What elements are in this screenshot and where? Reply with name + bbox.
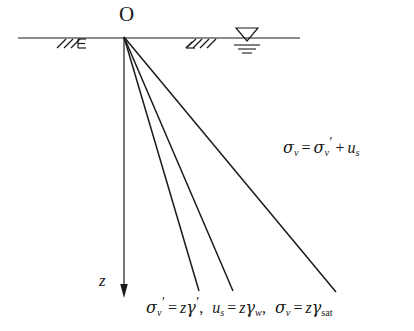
effective-stress-equation: σv′=zγ′ [146, 299, 199, 316]
sigma-effective-symbol: σ [314, 138, 325, 157]
pore-pressure-line [124, 37, 233, 291]
saturated-stress-equation: σv=zγsat [275, 299, 333, 316]
water-table-icon [234, 28, 260, 53]
u-subscript-s: s [355, 147, 359, 158]
diagram-canvas [0, 0, 414, 331]
equals-operator: = [298, 139, 313, 156]
gamma-subscript-sat: sat [321, 307, 332, 318]
stress-diagram-figure: O z σv=σv′+us σv′=zγ′, us=zγw, σv=zγsat [0, 0, 414, 331]
pore-pressure-equation: us=zγw [212, 299, 262, 316]
sigma-symbol: σ [146, 298, 157, 317]
equals-operator: = [224, 299, 239, 316]
gamma-symbol: γ [312, 298, 322, 317]
component-equations: σv′=zγ′, us=zγw, σv=zγsat [146, 298, 333, 317]
ground-hatch-icon [186, 39, 216, 48]
sigma-symbol: σ [283, 138, 294, 157]
down-arrow-icon [120, 38, 128, 298]
gamma-symbol: γ [246, 298, 256, 317]
origin-label: O [119, 2, 134, 27]
total-stress-equation: σv=σv′+us [283, 138, 359, 157]
ground-hatch-icon [57, 39, 86, 48]
plus-operator: + [332, 139, 347, 156]
gamma-symbol: γ [186, 298, 196, 317]
effective-stress-line [124, 37, 199, 291]
gamma-subscript-w: w [255, 307, 262, 318]
equals-operator: = [290, 299, 305, 316]
equation-separator: , [262, 299, 271, 316]
equation-separator: , [199, 299, 208, 316]
total-stress-line [124, 37, 336, 292]
depth-axis-label: z [99, 271, 106, 291]
equals-operator: = [165, 299, 180, 316]
sigma-symbol: σ [275, 298, 286, 317]
